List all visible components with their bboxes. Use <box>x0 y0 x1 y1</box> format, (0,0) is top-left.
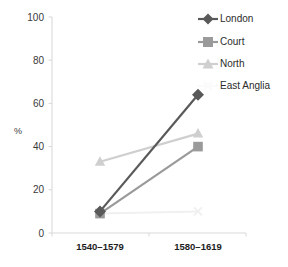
court-marker-2 <box>193 142 203 152</box>
legend-marker-square-icon <box>203 37 213 47</box>
axis-lines <box>52 17 246 233</box>
y-axis-title: % <box>14 126 22 136</box>
series-north <box>95 128 203 166</box>
y-tick-label-20: 20 <box>33 184 45 195</box>
chart-legend: London Court North East A <box>198 13 270 91</box>
line-chart: 100 80 60 40 20 0 % 1540–1579 1580–1619 <box>0 0 288 267</box>
london-line <box>100 95 198 212</box>
legend-marker-diamond-icon <box>203 14 214 25</box>
north-marker-2 <box>193 128 203 138</box>
y-tick-label-0: 0 <box>38 228 44 239</box>
y-tick-label-80: 80 <box>33 55 45 66</box>
legend-label-london: London <box>220 13 253 24</box>
legend-item-court[interactable]: Court <box>198 36 245 47</box>
y-axis-tick-labels: 100 80 60 40 20 0 <box>27 12 44 239</box>
x-axis-tick-labels: 1540–1579 1580–1619 <box>76 241 222 252</box>
y-tick-label-40: 40 <box>33 141 45 152</box>
legend-item-london[interactable]: London <box>198 13 253 25</box>
x-tick-label-1540-1579: 1540–1579 <box>76 241 124 252</box>
series-east-anglia <box>96 207 202 217</box>
legend-label-east-anglia: East Anglia <box>220 80 270 91</box>
x-tick-label-1580-1619: 1580–1619 <box>174 241 222 252</box>
east-anglia-line <box>100 211 198 213</box>
y-tick-label-100: 100 <box>27 12 44 23</box>
legend-item-east-anglia[interactable]: East Anglia <box>198 80 270 91</box>
chart-container: 100 80 60 40 20 0 % 1540–1579 1580–1619 <box>0 0 288 267</box>
legend-item-north[interactable]: North <box>198 58 244 69</box>
y-tick-label-60: 60 <box>33 98 45 109</box>
legend-label-court: Court <box>220 36 245 47</box>
legend-label-north: North <box>220 58 244 69</box>
